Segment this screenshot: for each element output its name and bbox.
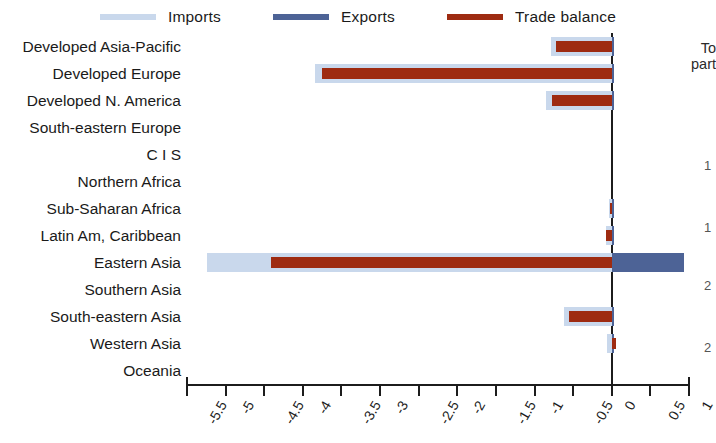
- x-tick-mark: [611, 385, 613, 396]
- bar-exports: [612, 253, 684, 272]
- legend-label-exports: Exports: [341, 8, 395, 26]
- x-tick-mark: [418, 385, 420, 396]
- legend-swatch-trade-balance: [447, 14, 503, 20]
- x-tick-mark: [225, 385, 227, 396]
- bar-row: [187, 141, 689, 168]
- x-tick-mark: [340, 385, 342, 396]
- bar-trade-balance: [556, 41, 612, 52]
- bar-trade-balance: [606, 230, 611, 241]
- x-tick-mark: [495, 385, 497, 396]
- x-tick-label: -4.5: [281, 398, 307, 427]
- y-axis-label: Developed Asia-Pacific: [0, 33, 181, 60]
- x-tick-mark: [456, 385, 458, 396]
- side-number: 2: [704, 340, 711, 355]
- x-tick-mark: [263, 385, 265, 396]
- bar-row: [187, 357, 689, 384]
- bar-row: [187, 276, 689, 303]
- y-axis-label: Developed N. America: [0, 87, 181, 114]
- bar-trade-balance: [552, 95, 612, 106]
- x-tick-mark: [649, 385, 651, 396]
- legend-label-imports: Imports: [168, 8, 221, 26]
- legend-item-imports: Imports: [100, 8, 221, 26]
- y-axis-label: South-eastern Europe: [0, 114, 181, 141]
- bar-trade-balance: [322, 68, 612, 79]
- bar-row: [187, 303, 689, 330]
- bar-trade-balance: [569, 311, 611, 322]
- chart-legend: Imports Exports Trade balance: [0, 4, 716, 30]
- y-axis-labels: Developed Asia-PacificDeveloped EuropeDe…: [0, 33, 181, 385]
- bar-trade-balance: [610, 203, 612, 214]
- side-numbers: 1122: [704, 150, 716, 380]
- bar-row: [187, 168, 689, 195]
- y-axis-label: Northern Africa: [0, 168, 181, 195]
- y-axis-label: South-eastern Asia: [0, 303, 181, 330]
- legend-swatch-exports: [273, 14, 329, 20]
- y-axis-label: Sub-Saharan Africa: [0, 195, 181, 222]
- x-tick-mark: [534, 385, 536, 396]
- bar-row: [187, 330, 689, 357]
- y-axis-label: Western Asia: [0, 330, 181, 357]
- x-tick-label: -5: [237, 398, 257, 417]
- y-axis-label: Latin Am, Caribbean: [0, 222, 181, 249]
- x-tick-mark: [302, 385, 304, 396]
- bar-row: [187, 249, 689, 276]
- bar-trade-balance: [612, 338, 616, 349]
- side-number: 1: [704, 158, 711, 173]
- bar-row: [187, 222, 689, 249]
- x-tick-mark: [186, 385, 188, 396]
- bar-row: [187, 87, 689, 114]
- x-tick-label: -1.5: [513, 398, 539, 427]
- x-tick-mark: [572, 385, 574, 396]
- y-axis-label: Southern Asia: [0, 276, 181, 303]
- y-axis-label: Developed Europe: [0, 60, 181, 87]
- side-note-line2: part: [672, 56, 716, 72]
- y-axis-label: C I S: [0, 141, 181, 168]
- bar-row: [187, 33, 689, 60]
- chart-root: Imports Exports Trade balance Developed …: [0, 0, 716, 443]
- x-tick-label: -5.5: [204, 398, 230, 427]
- x-tick-label: 1: [698, 398, 716, 413]
- x-tick-mark: [379, 385, 381, 396]
- bar-trade-balance: [271, 257, 612, 268]
- x-tick-label: -1: [546, 398, 566, 417]
- plot-area: [187, 33, 689, 385]
- y-axis-label: Oceania: [0, 357, 181, 384]
- x-tick-label: -2: [469, 398, 489, 417]
- legend-item-trade-balance: Trade balance: [447, 8, 616, 26]
- x-tick-label: -3.5: [359, 398, 385, 427]
- x-tick-label: -4: [314, 398, 334, 417]
- legend-swatch-imports: [100, 14, 156, 20]
- bar-exports: [612, 37, 614, 56]
- legend-item-exports: Exports: [273, 8, 395, 26]
- bar-exports: [612, 64, 614, 83]
- x-tick-label: 0: [621, 398, 639, 413]
- side-number: 2: [704, 278, 711, 293]
- x-axis-ticks: -5.5-5-4.5-4-3.5-3-2.5-2-1.5-1-0.500.51: [187, 385, 689, 443]
- bar-row: [187, 195, 689, 222]
- legend-label-trade-balance: Trade balance: [515, 8, 616, 26]
- side-note: To part: [672, 40, 716, 72]
- x-tick-label: 0.5: [665, 398, 689, 423]
- y-axis-label: Eastern Asia: [0, 249, 181, 276]
- x-tick-label: -2.5: [436, 398, 462, 427]
- x-tick-label: -3: [391, 398, 411, 417]
- bar-exports: [612, 91, 614, 110]
- bar-exports: [612, 307, 614, 326]
- bar-row: [187, 114, 689, 141]
- bar-exports: [612, 226, 614, 245]
- bar-row: [187, 60, 689, 87]
- x-tick-mark: [688, 385, 690, 396]
- side-number: 1: [704, 220, 711, 235]
- x-tick-label: -0.5: [590, 398, 616, 427]
- side-note-line1: To: [672, 40, 716, 56]
